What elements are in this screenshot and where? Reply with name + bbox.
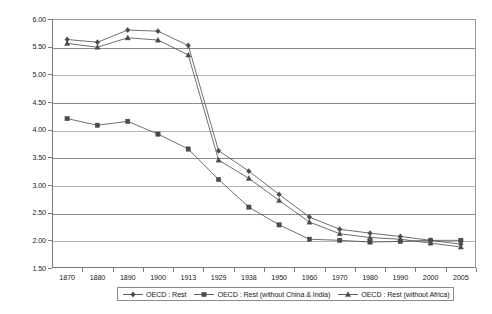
data-point-triangle [307,219,312,224]
data-point-square [368,240,372,244]
series-layer [0,0,492,314]
data-point-triangle [125,35,130,40]
legend-marker-diamond [122,290,144,299]
data-point-square [459,238,463,242]
series-line [67,119,461,242]
data-point-square [65,116,69,120]
data-point-diamond [186,43,191,48]
data-point-diamond [216,148,221,153]
legend-item-1[interactable]: OECD : Rest [122,290,186,299]
legend-label: OECD : Rest (without Africa) [361,290,449,299]
legend-label: OECD : Rest [146,290,186,299]
data-point-triangle [216,157,221,162]
data-point-square [95,123,99,127]
series-line [67,30,461,244]
series-3 [65,35,464,249]
line-chart: 1.502.002.503.003.504.004.505.005.506.00… [0,0,492,314]
data-point-square [307,237,311,241]
data-point-diamond [131,291,136,296]
data-point-diamond [125,27,130,32]
legend-item-3[interactable]: OECD : Rest (without Africa) [337,290,449,299]
data-point-square [156,132,160,136]
data-point-diamond [156,28,161,33]
data-point-square [247,205,251,209]
data-point-square [126,119,130,123]
series-2 [65,116,463,244]
chart-legend: OECD : RestOECD : Rest (without China & … [117,287,454,301]
data-point-diamond [247,168,252,173]
legend-item-2[interactable]: OECD : Rest (without China & India) [193,290,330,299]
data-point-triangle [277,198,282,203]
series-1 [65,27,463,247]
data-point-triangle [65,41,70,46]
legend-label: OECD : Rest (without China & India) [217,290,330,299]
data-point-square [338,238,342,242]
data-point-triangle [246,176,251,181]
data-point-diamond [277,192,282,197]
data-point-square [186,147,190,151]
legend-marker-triangle [337,290,359,299]
data-point-square [277,223,281,227]
data-point-square [202,292,206,296]
data-point-square [216,177,220,181]
legend-marker-square [193,290,215,299]
